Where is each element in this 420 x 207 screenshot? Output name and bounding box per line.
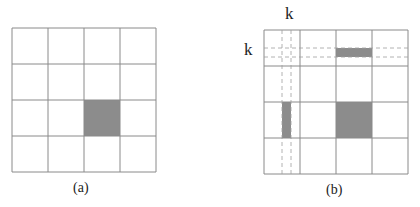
shaded-block bbox=[282, 102, 291, 138]
shaded-block bbox=[336, 102, 372, 138]
shaded-cell bbox=[84, 100, 120, 136]
caption-b: (b) bbox=[326, 182, 342, 198]
row-k-label: k bbox=[244, 40, 253, 60]
shaded-block bbox=[336, 48, 372, 57]
column-k-label: k bbox=[285, 4, 294, 24]
figure-canvas bbox=[0, 0, 420, 207]
grid-b bbox=[264, 30, 408, 174]
grid-a bbox=[12, 28, 156, 172]
caption-a: (a) bbox=[73, 180, 89, 196]
